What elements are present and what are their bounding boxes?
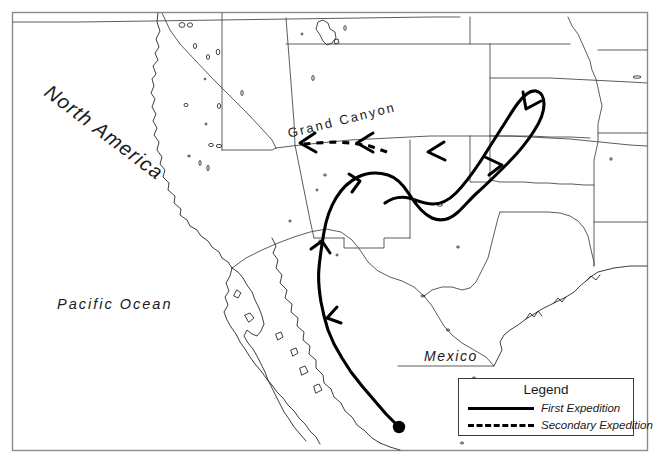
nevada-arizona-border bbox=[222, 148, 276, 150]
baja-california-peninsula bbox=[224, 268, 320, 444]
legend-swatch-solid-line bbox=[468, 407, 534, 410]
legend-row-first-expedition: First Expedition bbox=[459, 402, 633, 414]
oklahoma-texas-border bbox=[490, 136, 594, 185]
great-salt-lake bbox=[316, 20, 336, 45]
legend-title: Legend bbox=[459, 382, 633, 397]
lake-detail-small bbox=[334, 39, 339, 44]
secondary-expedition-route bbox=[304, 142, 387, 152]
nebraska-kansas-border bbox=[490, 78, 647, 83]
legend-label-secondary-expedition: Secondary Expedition bbox=[541, 419, 653, 431]
northern-border-line bbox=[13, 17, 460, 22]
primary-route-arrow-origin-north bbox=[327, 307, 341, 323]
legend: Legend First Expedition Secondary Expedi… bbox=[458, 378, 634, 436]
legend-row-secondary-expedition: Secondary Expedition bbox=[459, 419, 633, 431]
gulf-of-california-east-shore bbox=[272, 238, 380, 443]
baja-inner-bay bbox=[234, 290, 254, 322]
legend-label-first-expedition: First Expedition bbox=[541, 402, 620, 414]
legend-swatch-dashed-line bbox=[468, 424, 534, 427]
secondary-route-arrow-mid bbox=[357, 133, 373, 152]
label-mexico: Mexico bbox=[424, 348, 478, 364]
mexico-coast-islands bbox=[276, 332, 322, 393]
primary-route-arrow-westbound bbox=[428, 142, 445, 160]
california-nevada-border bbox=[162, 13, 276, 148]
label-pacific-ocean: Pacific Ocean bbox=[57, 296, 172, 312]
gulf-coast-detail bbox=[526, 275, 600, 319]
texas-outline bbox=[424, 212, 594, 296]
map-figure: North America Pacific Ocean Mexico Grand… bbox=[0, 0, 659, 464]
wyoming-nebraska-line bbox=[470, 17, 570, 44]
gulf-coast-texas bbox=[494, 266, 647, 366]
expedition-origin-marker bbox=[393, 421, 405, 433]
us-mexico-border bbox=[232, 229, 494, 366]
arizona-newmexico-border bbox=[295, 145, 344, 238]
primary-expedition-route bbox=[319, 91, 544, 427]
southern-mexico-coast bbox=[380, 443, 400, 450]
